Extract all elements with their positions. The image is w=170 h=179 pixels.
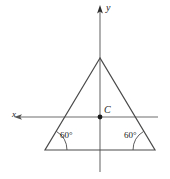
y-axis-label: y: [106, 3, 110, 13]
geometry-figure: y x C 60° 60°: [0, 0, 170, 179]
x-axis-label: x: [12, 110, 16, 119]
figure-canvas: [0, 0, 170, 179]
angle-label-right: 60°: [124, 131, 137, 140]
angle-label-left: 60°: [60, 131, 73, 140]
centroid-point-marker: [98, 115, 103, 120]
centroid-label: C: [104, 105, 111, 115]
